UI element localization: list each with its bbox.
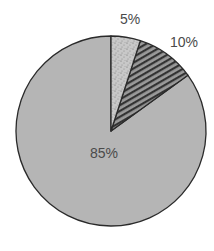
slice-label-85-percent: 85% — [90, 145, 118, 161]
pie-chart: 5%10%85% — [0, 0, 214, 251]
slice-label-10-percent: 10% — [170, 34, 198, 50]
pie-slices — [16, 36, 206, 226]
slice-label-5-percent: 5% — [120, 11, 140, 27]
